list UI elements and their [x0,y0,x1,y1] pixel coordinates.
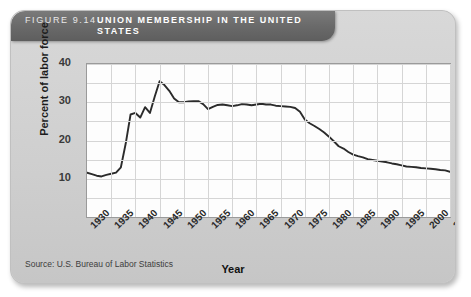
gridline-vertical [208,64,209,217]
gridline-vertical [305,64,306,217]
gridline-vertical [160,64,161,217]
gridline-horizontal-minor [87,83,450,84]
figure-title-bar: FIGURE 9.14 UNION MEMBERSHIP IN THE UNIT… [11,11,335,41]
y-axis-ticks: 10203040 [41,63,71,219]
gridline-vertical [184,64,185,217]
plot-frame [76,63,452,219]
y-tick-label: 20 [49,133,71,145]
gridline-horizontal-minor [87,121,450,122]
gridline-vertical [450,64,451,217]
gridline-vertical [329,64,330,217]
gridline-horizontal [87,102,450,103]
gridline-horizontal [87,64,450,65]
gridline-vertical [353,64,354,217]
gridline-vertical [426,64,427,217]
gridline-vertical [232,64,233,217]
gridline-vertical [111,64,112,217]
gridline-horizontal [87,141,450,142]
x-axis-ticks: 1930193519401945195019551960196519701975… [86,223,455,263]
gridline-vertical [281,64,282,217]
gridline-vertical [402,64,403,217]
gridline-horizontal [87,179,450,180]
y-tick-label: 10 [49,171,71,183]
y-tick-label: 30 [49,94,71,106]
gridline-horizontal-minor [87,160,450,161]
gridline-vertical [135,64,136,217]
plot-area [86,63,451,218]
figure-card: FIGURE 9.14 UNION MEMBERSHIP IN THE UNIT… [10,10,456,284]
figure-panel: FIGURE 9.14 UNION MEMBERSHIP IN THE UNIT… [11,11,455,283]
gridline-vertical [256,64,257,217]
gridline-vertical [377,64,378,217]
figure-title: UNION MEMBERSHIP IN THE UNITED STATES [97,15,327,37]
source-note: Source: U.S. Bureau of Labor Statistics [25,259,173,269]
y-tick-label: 40 [49,56,71,68]
figure-number: FIGURE 9.14 [25,15,97,25]
gridline-horizontal-minor [87,198,450,199]
